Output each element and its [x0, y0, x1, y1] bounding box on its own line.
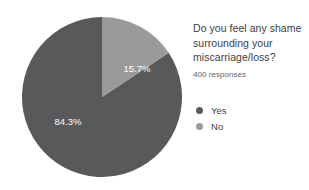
pie-slice-label-yes: 84.3%	[55, 116, 82, 127]
legend-item-no[interactable]: No	[196, 118, 227, 134]
chart-title-line-1: Do you feel any shame	[193, 22, 301, 34]
legend-swatch-yes-icon	[196, 107, 203, 114]
chart-title: Do you feel any shame surrounding your m…	[193, 21, 305, 65]
chart-info-panel: Do you feel any shame surrounding your m…	[193, 21, 305, 81]
legend-label-no: No	[211, 121, 223, 132]
chart-legend: Yes No	[196, 102, 227, 134]
legend-swatch-no-icon	[196, 123, 203, 130]
response-count: 400 responses	[193, 69, 305, 81]
legend-label-yes: Yes	[211, 105, 227, 116]
chart-title-line-2: surrounding your	[193, 37, 273, 49]
legend-item-yes[interactable]: Yes	[196, 102, 227, 118]
pie-chart-figure: 84.3% 15.7% Do you feel any shame surrou…	[0, 0, 309, 190]
pie-svg: 84.3% 15.7%	[22, 17, 182, 177]
pie-chart-graphic: 84.3% 15.7%	[22, 17, 182, 177]
pie-slice-label-no: 15.7%	[124, 63, 151, 74]
chart-title-line-3: miscarriage/loss?	[193, 51, 276, 63]
